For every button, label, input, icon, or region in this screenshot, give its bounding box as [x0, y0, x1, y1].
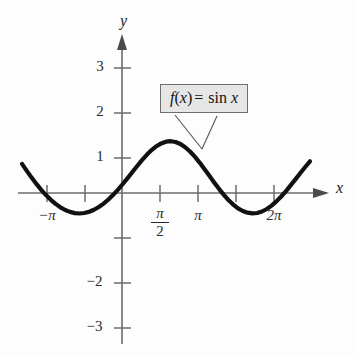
x-axis-label: x: [336, 179, 343, 197]
callout-variable: x: [180, 89, 187, 106]
callout-equals: =: [192, 89, 205, 106]
y-tick-label-minus-2: −2: [80, 273, 109, 290]
y-tick-label-3: 3: [91, 58, 109, 75]
y-tick-label-2: 2: [91, 103, 109, 120]
y-axis-arrow: [117, 34, 127, 50]
y-tick-label-minus-3: −3: [80, 318, 109, 335]
y-axis-label: y: [120, 12, 127, 30]
sine-function-figure: y x 3 2 1 −2 −3 −π π 2 π 2π f(x)=sin x: [0, 0, 357, 356]
x-tick-label-minus-pi: −π: [31, 207, 63, 224]
plot-canvas: [0, 0, 357, 356]
x-tick-label-2pi: 2π: [260, 207, 288, 224]
x-axis-arrow: [313, 188, 329, 198]
y-tick-label-1: 1: [91, 148, 109, 165]
x-tick-label-pi: π: [189, 207, 207, 224]
x-tick-label-pi-over-2: π 2: [150, 206, 170, 239]
sine-curve: [22, 141, 310, 213]
callout-argument: x: [231, 89, 238, 106]
callout-sin: sin: [205, 89, 227, 106]
fraction-numerator: π: [150, 206, 170, 222]
function-label-callout: f(x)=sin x: [160, 84, 248, 113]
fraction-denominator: 2: [150, 223, 170, 239]
